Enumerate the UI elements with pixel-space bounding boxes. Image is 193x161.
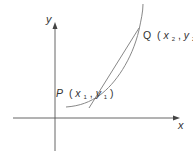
point-q-open-paren: ( [157,29,161,41]
point-p-name: P [56,87,63,99]
y-axis-arrow-icon [53,22,58,29]
point-q-y-sub: 2 [192,36,193,42]
point-q-name: Q [143,29,151,41]
point-p-y-sub: 1 [104,94,108,100]
point-q-comma: , [178,29,181,41]
point-q-x-sub: 2 [172,36,176,42]
point-p-open-paren: ( [69,87,73,99]
point-p-x: x [74,87,81,99]
point-q-label: Q ( x 2 , y 2 ) [143,29,193,43]
point-p-x-sub: 1 [84,94,88,100]
point-p-comma: , [90,87,93,99]
x-axis-label: x [177,119,184,131]
point-q-y: y [183,29,190,41]
y-axis-label: y [45,13,53,25]
point-q-x: x [163,29,170,41]
secant-diagram: y x P ( x 1 , y 1 ) Q ( x 2 , y 2 ) [0,0,193,161]
point-p-close-paren: ) [110,87,114,99]
point-p-y: y [95,87,102,99]
diagram-canvas: y x P ( x 1 , y 1 ) Q ( x 2 , y 2 ) [0,0,193,161]
point-p-label: P ( x 1 , y 1 ) [56,87,114,101]
